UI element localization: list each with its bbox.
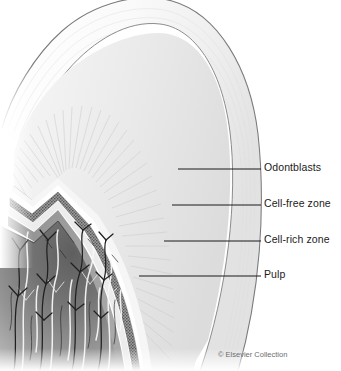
label-pulp: Pulp: [264, 268, 285, 280]
label-odontoblasts: Odontblasts: [264, 161, 321, 173]
tooth-histology-figure: Odontblasts Cell-free zone Cell-rich zon…: [0, 0, 341, 371]
tooth-cross-section-illustration: [0, 0, 341, 371]
label-cell-rich-zone: Cell-rich zone: [264, 233, 330, 245]
copyright-notice: © Elsevier Collection: [218, 350, 287, 359]
label-cell-free-zone: Cell-free zone: [264, 197, 331, 209]
